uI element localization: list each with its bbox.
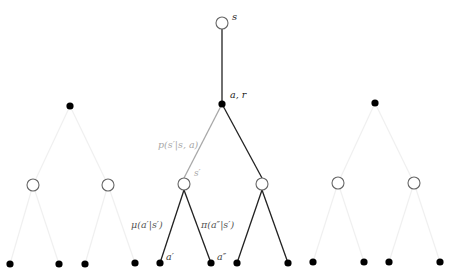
edge-s2-to-leaf2 <box>262 190 288 263</box>
behavior-policy-label: μ(a′|s′) <box>131 219 163 231</box>
backup-diagram: s a, r p(s′|s, a) s′ μ(a′|s′) π(a″|s′) a… <box>0 0 458 278</box>
action-a2-label: a″ <box>217 251 227 262</box>
faint-edges <box>10 103 440 264</box>
next-state-label: s′ <box>194 168 201 178</box>
action-a1-label: a′ <box>166 251 175 262</box>
root-state-label: s <box>232 11 237 22</box>
transition-label: p(s′|s, a) <box>158 139 199 151</box>
state-node-cs2 <box>256 178 268 190</box>
edge-action-to-s2 <box>222 104 262 178</box>
state-node-ls2 <box>102 179 114 191</box>
action-node-right <box>371 99 378 106</box>
root-state-node <box>216 17 228 29</box>
action-node-center <box>218 100 225 107</box>
target-policy-label: π(a″|s′) <box>200 219 234 231</box>
edge-s2-to-leaf1 <box>237 190 262 263</box>
state-node-ls1 <box>27 179 39 191</box>
state-node-cs1 <box>178 178 190 190</box>
root-action-label: a, r <box>230 89 248 100</box>
action-nodes <box>66 99 378 109</box>
action-node-left <box>66 102 73 109</box>
state-node-rs1 <box>332 177 344 189</box>
state-node-rs2 <box>408 177 420 189</box>
